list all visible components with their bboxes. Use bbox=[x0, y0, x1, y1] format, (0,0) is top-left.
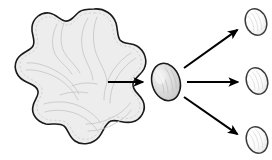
diagram-canvas bbox=[0, 0, 272, 160]
biology-lifecycle-diagram bbox=[0, 0, 272, 160]
